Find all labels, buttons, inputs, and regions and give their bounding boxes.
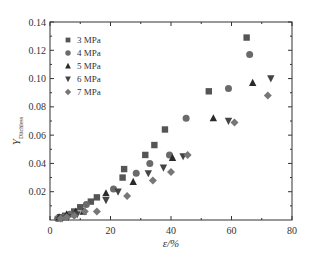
legend-item: 6 MPa: [65, 74, 101, 84]
x-tick-label: 0: [48, 225, 53, 236]
data-point: [184, 151, 192, 159]
legend-label: 4 MPa: [77, 48, 101, 58]
data-point: [264, 92, 272, 100]
x-tick-label: 80: [287, 225, 297, 236]
data-point: [243, 34, 249, 40]
data-point: [93, 208, 101, 216]
y-tick-label: 0.10: [29, 73, 47, 84]
data-point: [119, 174, 125, 180]
x-tick-label: 60: [227, 225, 237, 236]
y-axis: 0.020.040.060.080.100.120.14: [29, 17, 293, 206]
y-tick-label: 0.02: [29, 186, 47, 197]
data-point: [183, 115, 190, 122]
legend-label: 7 MPa: [77, 87, 101, 97]
legend-item: 5 MPa: [65, 61, 101, 71]
data-point: [145, 170, 152, 177]
data-point: [246, 51, 253, 58]
data-point: [151, 142, 157, 148]
data-point: [123, 192, 131, 200]
legend-item: 4 MPa: [65, 48, 100, 58]
y-tick-label: 0.06: [29, 130, 47, 141]
data-point: [225, 118, 232, 125]
legend-label: 3 MPa: [77, 35, 101, 45]
svg-text:YDitchless: YDitchless: [10, 116, 24, 145]
data-point: [225, 85, 232, 92]
scatter-chart: 020406080 0.020.040.060.080.100.120.14 3…: [0, 0, 311, 258]
triangle-down-marker-icon: [65, 77, 71, 83]
x-axis-title: ε/%: [163, 237, 180, 249]
data-point: [114, 189, 121, 196]
data-point: [142, 152, 148, 158]
y-tick-label: 0.08: [29, 101, 47, 112]
data-point: [267, 75, 274, 82]
circle-marker-icon: [65, 50, 70, 55]
data-point: [249, 79, 256, 86]
data-point: [210, 114, 217, 121]
data-point: [162, 126, 168, 132]
legend-item: 7 MPa: [65, 87, 101, 97]
diamond-marker-icon: [65, 89, 71, 95]
data-point: [129, 178, 136, 185]
data-point: [94, 194, 100, 200]
legend-item: 3 MPa: [66, 35, 101, 45]
data-point: [206, 88, 212, 94]
data-point: [160, 164, 167, 171]
data-point: [102, 197, 109, 204]
data-point: [146, 160, 153, 167]
square-marker-icon: [66, 38, 71, 43]
legend-label: 6 MPa: [77, 74, 101, 84]
data-point: [167, 168, 175, 176]
legend: 3 MPa4 MPa5 MPa6 MPa7 MPa: [65, 35, 101, 97]
y-tick-label: 0.12: [29, 45, 47, 56]
y-axis-title-sub: Ditchless: [18, 116, 24, 139]
data-point: [102, 189, 109, 196]
y-tick-label: 0.04: [29, 158, 47, 169]
data-point: [121, 166, 127, 172]
y-axis-title: YDitchless: [10, 116, 24, 145]
data-point: [149, 176, 157, 184]
x-tick-label: 40: [166, 225, 176, 236]
series-5-mpa: [55, 79, 256, 221]
legend-label: 5 MPa: [77, 61, 101, 71]
y-tick-label: 0.14: [29, 17, 47, 28]
x-tick-label: 20: [106, 225, 116, 236]
data-point: [133, 170, 140, 177]
data-point: [83, 201, 90, 208]
data-point: [231, 118, 239, 126]
triangle-up-marker-icon: [65, 63, 71, 69]
